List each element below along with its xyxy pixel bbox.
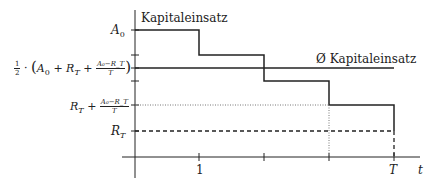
x-label-1: 1 — [196, 164, 204, 176]
capital-step-line — [135, 30, 394, 131]
x-label-T: T — [389, 164, 397, 176]
y-label-rt: RT — [111, 125, 125, 142]
half-num: 1 — [14, 60, 20, 69]
frac-den: T — [100, 107, 129, 115]
frac-num: A₀−R_T — [96, 60, 125, 69]
frac-num: A₀−R_T — [100, 98, 129, 107]
rt-sub: T — [120, 131, 125, 140]
y-label-rt-plus: RT + A₀−R_TT — [70, 98, 129, 117]
a0-base: A — [111, 23, 120, 37]
rt-base: R — [111, 124, 120, 138]
a0-sub: 0 — [120, 30, 125, 39]
plus: + — [83, 62, 92, 75]
plus: + — [53, 62, 62, 75]
close-paren: ) — [125, 58, 131, 76]
half-den: 2 — [14, 69, 20, 77]
kapitaleinsatz-label: Kapitaleinsatz — [141, 12, 228, 24]
dot-operator: · — [24, 62, 28, 75]
capital-employed-diagram — [0, 0, 439, 184]
avg-r-sub: T — [74, 68, 79, 77]
plus: + — [87, 100, 96, 113]
avg-a-sub: 0 — [45, 68, 50, 77]
rtplus-r-sub: T — [78, 106, 83, 115]
x-axis-label-t: t — [418, 164, 423, 176]
average-label: Ø Kapitaleinsatz — [316, 53, 416, 65]
y-label-average-formula: 12 · (A0 + RT + A₀−R_TT) — [14, 60, 131, 79]
y-label-a0: A0 — [111, 24, 125, 41]
frac-den: T — [96, 69, 125, 77]
avg-a: A — [37, 62, 45, 75]
